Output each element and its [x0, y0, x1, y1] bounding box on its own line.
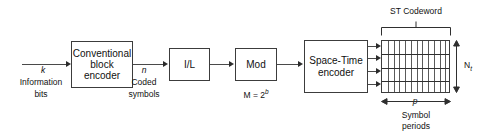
coded-caption-line1: Coded: [119, 78, 169, 88]
matrix-column-divider: [422, 41, 423, 92]
input-symbol-label: k: [34, 66, 52, 76]
matrix-column-divider: [411, 41, 412, 92]
matrix-column-divider: [405, 41, 406, 92]
matrix-column-divider: [434, 41, 435, 92]
matrix-column-divider: [417, 41, 418, 92]
mod-order-exponent: b: [265, 88, 269, 95]
block-line-conventional: Conventional: [73, 48, 131, 59]
arrowhead-mod-in: [229, 61, 234, 67]
matrix-column-divider: [445, 41, 446, 92]
matrix-column-divider: [440, 41, 441, 92]
st-codeword-matrix[interactable]: [381, 40, 450, 93]
input-caption-line1: Information: [10, 78, 72, 88]
diagram-canvas: k Information bits Conventional block en…: [0, 0, 483, 135]
block-line-space-time: Space-Time: [309, 55, 363, 66]
rows-subscript: t: [470, 65, 472, 72]
block-interleaver[interactable]: I/L: [169, 48, 210, 81]
matrix-row-divider: [382, 68, 449, 69]
arrowhead-interleaver-in: [163, 61, 168, 67]
block-line-st-encoder: encoder: [309, 67, 363, 78]
input-caption-line2: bits: [10, 90, 72, 100]
matrix-row-divider: [382, 54, 449, 55]
block-line-interleaver: I/L: [184, 59, 195, 70]
cols-measure-label: p: [407, 97, 423, 107]
st-codeword-bracket: [382, 22, 451, 36]
coded-caption-line2: symbols: [116, 90, 172, 100]
block-modulator[interactable]: Mod: [235, 48, 277, 81]
matrix-column-divider: [388, 41, 389, 92]
mod-order-label: M = 2b: [227, 88, 285, 101]
st-codeword-label: ST Codeword: [378, 7, 454, 17]
wire-interleaver-to-mod: [210, 64, 230, 65]
matrix-row-divider: [382, 81, 449, 82]
matrix-column-divider: [394, 41, 395, 92]
block-space-time-encoder[interactable]: Space-Time encoder: [304, 40, 368, 93]
block-line-mod: Mod: [246, 59, 265, 70]
cols-caption-line2: periods: [388, 122, 444, 132]
matrix-column-divider: [428, 41, 429, 92]
mod-order-prefix: M = 2: [243, 90, 265, 100]
rows-measure-label: Nt: [458, 61, 478, 72]
arrowhead-st-encoder-in: [298, 61, 303, 67]
cols-caption-line1: Symbol: [388, 111, 444, 121]
matrix-column-divider: [399, 41, 400, 92]
wire-mod-to-st-encoder: [277, 64, 299, 65]
wire-encoder-to-interleaver: [133, 64, 164, 65]
block-line-block: block: [73, 59, 131, 70]
coded-symbol-label: n: [136, 66, 152, 76]
